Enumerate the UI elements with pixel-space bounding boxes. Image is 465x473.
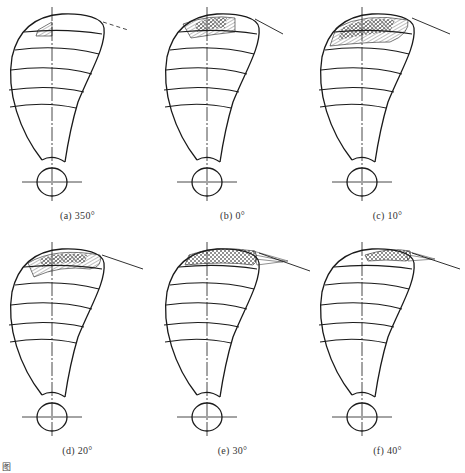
caption-e: (e) 30°: [155, 445, 310, 456]
figure-label-fragment: 图: [2, 460, 11, 473]
panel-d: (d) 20°: [0, 237, 155, 469]
panel-e: (e) 30°: [155, 237, 310, 469]
blade-diagram-f: [310, 237, 465, 442]
caption-d: (d) 20°: [0, 445, 155, 456]
panel-f: (f) 40°: [310, 237, 465, 469]
caption-b: (b) 0°: [155, 210, 310, 221]
caption-f: (f) 40°: [310, 445, 465, 456]
caption-a: (a) 350°: [0, 210, 155, 221]
blade-diagram-c: [310, 2, 465, 207]
blade-diagram-a: [0, 2, 155, 207]
blade-diagram-d: [0, 237, 155, 442]
panel-a: (a) 350°: [0, 2, 155, 234]
caption-c: (c) 10°: [310, 210, 465, 221]
blade-diagram-b: [155, 2, 310, 207]
panel-c: (c) 10°: [310, 2, 465, 234]
blade-diagram-e: [155, 237, 310, 442]
panel-b: (b) 0°: [155, 2, 310, 234]
